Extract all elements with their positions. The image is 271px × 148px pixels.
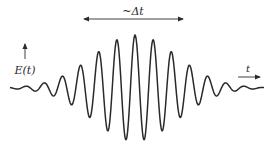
x-axis-label: t xyxy=(246,63,251,74)
duration-label: ~Δt xyxy=(122,5,144,18)
wave-packet-curve xyxy=(10,35,264,140)
wave-packet-diagram: ~Δt E(t) t xyxy=(0,0,271,148)
y-axis-label: E(t) xyxy=(13,64,35,77)
